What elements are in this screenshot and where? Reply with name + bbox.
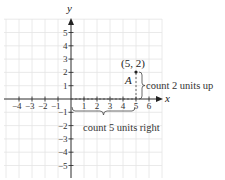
vertical-count-annotation: count 2 units up	[146, 80, 213, 91]
grid	[4, 19, 162, 178]
point-marker	[134, 70, 137, 73]
y-tick-label: −1	[58, 107, 68, 117]
x-tick-label: −3	[25, 101, 35, 111]
x-tick-label: 2	[95, 101, 100, 111]
x-tick-label: 3	[108, 101, 113, 111]
y-tick-label: −5	[58, 161, 68, 171]
x-tick-label: 6	[147, 101, 152, 111]
y-axis-label: y	[66, 2, 72, 14]
y-tick-label: 4	[63, 41, 68, 51]
x-tick-label: −4	[12, 101, 22, 111]
x-tick-label: 4	[121, 101, 126, 111]
horizontal-count-annotation: count 5 units right	[83, 122, 160, 133]
y-tick-label: 3	[63, 54, 68, 64]
y-tick-label: −2	[58, 121, 68, 131]
x-tick-label: 1	[82, 101, 87, 111]
y-tick-label: −3	[58, 134, 68, 144]
y-tick-label: 5	[63, 28, 68, 38]
point-a: (5, 2) A	[121, 57, 145, 86]
y-tick-label: −4	[58, 147, 68, 157]
vertical-brace: count 2 units up	[139, 72, 213, 99]
point-name-label: A	[124, 74, 132, 86]
y-tick-label: 1	[63, 81, 68, 91]
coordinate-plane: x y −4−3−2−1123456 54321−1−2−3−4−5 (5, 2…	[0, 0, 225, 180]
y-tick-label: 2	[63, 67, 68, 77]
x-tick-label: −2	[38, 101, 48, 111]
point-coordinates-label: (5, 2)	[121, 57, 145, 70]
x-axis-label: x	[164, 92, 170, 104]
